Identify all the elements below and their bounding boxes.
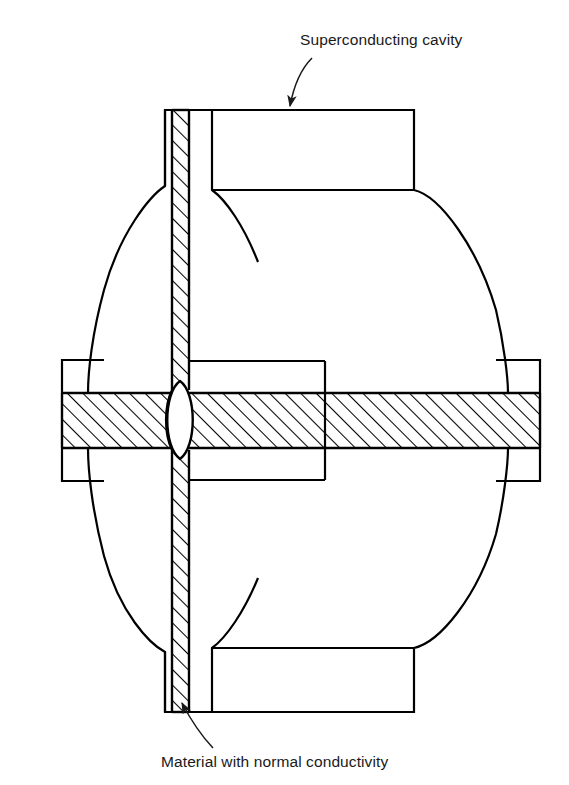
horizontal-conductor-bar: [62, 393, 540, 448]
horizontal-bar-fill: [62, 393, 540, 448]
leader-line-superconducting-cavity: [290, 58, 312, 106]
cavity-outer-step-right-top: [496, 360, 540, 393]
cavity-neck-inner-bottom: [212, 578, 258, 712]
cavity-inner-step-left-top: [62, 360, 104, 393]
central-lens-aperture: [166, 381, 193, 459]
cavity-neck-inner-top: [212, 110, 258, 262]
figure-root: Superconducting cavity Material with nor…: [0, 0, 569, 785]
septum-upper-fill: [172, 110, 189, 387]
superconducting-cavity-diagram: Superconducting cavity Material with nor…: [0, 0, 569, 785]
cavity-outer-step-right-bottom: [496, 448, 540, 481]
label-material-normal-conductivity: Material with normal conductivity: [161, 753, 388, 770]
cavity-outline-right-bottom: [189, 448, 508, 712]
septum-lower-fill: [172, 453, 189, 712]
cavity-outline-right-top: [189, 110, 508, 393]
label-superconducting-cavity: Superconducting cavity: [300, 31, 463, 48]
cavity-inner-step-left-bottom: [62, 448, 104, 481]
annotation-superconducting-cavity: Superconducting cavity: [290, 31, 463, 106]
